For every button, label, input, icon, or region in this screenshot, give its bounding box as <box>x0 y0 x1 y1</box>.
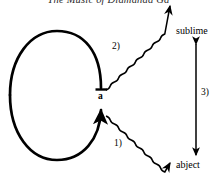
cycle-loop-upper <box>10 31 107 95</box>
node-label-sublime: sublime <box>176 26 208 36</box>
arrow-label-2: 2) <box>112 42 120 52</box>
node-label-a: a <box>98 92 103 102</box>
arrow-label-3: 3) <box>201 88 209 98</box>
cycle-loop-lower <box>10 95 101 160</box>
node-label-abject: abject <box>176 160 200 170</box>
figure-canvas: The Music of Diamanda Ga <box>0 0 217 181</box>
arrow-label-1: 1) <box>114 139 122 149</box>
